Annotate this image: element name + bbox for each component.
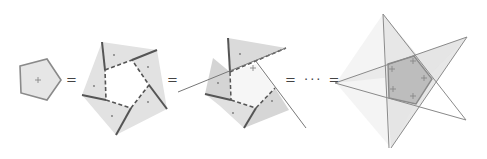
diagram-canvas: = = = ··· = (0, 0, 487, 159)
figure-pentagram-star (335, 14, 467, 148)
figure-pentagon (20, 59, 61, 100)
equals-sign-1: = (66, 73, 77, 86)
equals-sign-2: = (167, 73, 178, 86)
figure-folded-pentagon (82, 42, 167, 135)
equals-ellipsis-equals: = ··· = (285, 73, 341, 86)
